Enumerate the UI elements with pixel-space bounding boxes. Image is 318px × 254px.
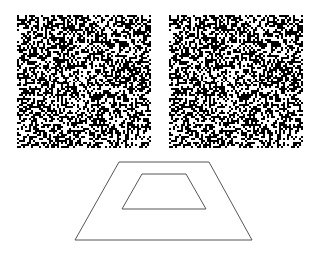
raised-square-outline — [122, 174, 206, 209]
depth-map-diagram — [0, 0, 318, 254]
